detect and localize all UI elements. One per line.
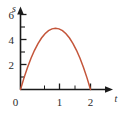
x-tick-label-2: 2 bbox=[88, 96, 94, 108]
x-axis-label: t bbox=[115, 93, 118, 104]
y-axis-arrowhead bbox=[17, 7, 24, 15]
chart-canvas: 2 4 6 0 1 2 s t bbox=[0, 0, 125, 115]
x-axis bbox=[21, 86, 114, 93]
y-axis-label: s bbox=[12, 3, 16, 14]
x-tick-label-0: 0 bbox=[13, 96, 19, 108]
y-tick-label-4: 4 bbox=[9, 34, 15, 46]
parabola-graph-figure: 2 4 6 0 1 2 s t bbox=[0, 0, 125, 115]
x-axis-arrowhead bbox=[105, 86, 113, 93]
y-axis-major-ticks bbox=[21, 15, 27, 65]
curve-series-s bbox=[21, 28, 91, 89]
y-tick-label-2: 2 bbox=[9, 59, 15, 71]
x-tick-label-1: 1 bbox=[57, 96, 63, 108]
parabola-curve bbox=[21, 28, 91, 89]
